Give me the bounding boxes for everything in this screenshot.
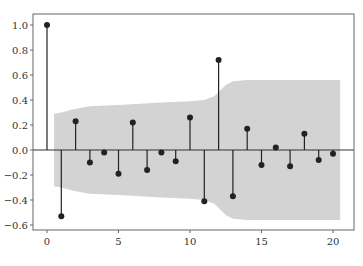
acf-chart: 05101520 1.00.80.60.40.20.0−0.2−0.4−0.6 xyxy=(0,0,363,266)
x-tick-label: 5 xyxy=(115,236,121,247)
data-point xyxy=(87,160,93,166)
data-point xyxy=(130,120,136,126)
y-tick-label: 0.6 xyxy=(12,70,28,81)
y-tick-label: 0.0 xyxy=(12,145,28,156)
data-point xyxy=(158,150,164,156)
stem-lag-4 xyxy=(101,150,107,156)
data-point xyxy=(173,158,179,164)
data-point xyxy=(187,115,193,121)
y-axis: 1.00.80.60.40.20.0−0.2−0.4−0.6 xyxy=(4,20,33,231)
data-point xyxy=(144,167,150,173)
data-point xyxy=(259,162,265,168)
data-point xyxy=(44,22,50,28)
data-point xyxy=(58,213,64,219)
x-axis: 05101520 xyxy=(44,230,340,247)
data-point xyxy=(101,150,107,156)
y-tick-label: −0.4 xyxy=(4,195,28,206)
data-point xyxy=(287,163,293,169)
x-tick-label: 15 xyxy=(255,236,268,247)
y-tick-label: 1.0 xyxy=(12,20,28,31)
data-point xyxy=(201,198,207,204)
stem-lag-8 xyxy=(158,150,164,156)
data-point xyxy=(301,131,307,137)
data-point xyxy=(316,157,322,163)
data-point xyxy=(216,57,222,63)
x-tick-label: 20 xyxy=(327,236,340,247)
x-tick-label: 0 xyxy=(44,236,50,247)
data-point xyxy=(230,193,236,199)
data-point xyxy=(330,151,336,157)
y-tick-label: 0.8 xyxy=(12,45,28,56)
data-point xyxy=(116,171,122,177)
data-point xyxy=(73,118,79,124)
stem-lag-16 xyxy=(273,145,279,151)
data-point xyxy=(273,145,279,151)
y-tick-label: 0.4 xyxy=(12,95,28,106)
data-point xyxy=(244,126,250,132)
stem-lag-0 xyxy=(44,22,50,150)
y-tick-label: 0.2 xyxy=(12,120,28,131)
y-tick-label: −0.6 xyxy=(4,220,28,231)
x-tick-label: 10 xyxy=(184,236,197,247)
y-tick-label: −0.2 xyxy=(4,170,28,181)
